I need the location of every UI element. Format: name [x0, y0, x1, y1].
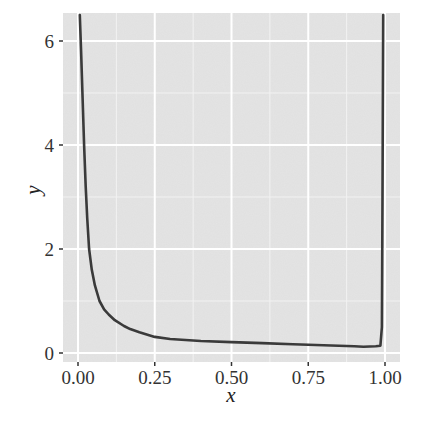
x-tick-label: 1.00	[368, 367, 401, 388]
x-tick-label: 0.25	[138, 367, 171, 388]
y-tick-label: 4	[45, 135, 55, 156]
y-tick-label: 0	[45, 343, 55, 364]
line-chart: 0.000.250.500.751.00 0246 x y	[0, 0, 421, 421]
y-axis-ticks: 0246	[45, 31, 64, 364]
y-tick-label: 2	[45, 239, 55, 260]
y-tick-label: 6	[45, 31, 55, 52]
x-tick-label: 0.75	[292, 367, 325, 388]
y-axis-title: y	[21, 185, 45, 197]
x-axis-title: x	[225, 383, 236, 407]
x-tick-label: 0.00	[61, 367, 94, 388]
